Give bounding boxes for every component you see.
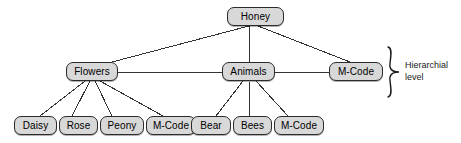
- node-label: M-Code: [338, 67, 374, 77]
- edge-flowers-to-peony: [95, 81, 112, 116]
- node-label: Peony: [108, 121, 137, 131]
- node-rose[interactable]: Rose: [59, 116, 98, 135]
- brace-path: [388, 47, 399, 97]
- node-label: M-Code: [281, 121, 317, 131]
- edge-honey-to-mcode-top: [258, 26, 350, 62]
- node-bees[interactable]: Bees: [233, 116, 272, 135]
- node-label: Bees: [241, 121, 264, 131]
- node-label: Rose: [67, 121, 91, 131]
- edge-honey-to-flowers: [112, 26, 249, 62]
- edge-animals-to-bear: [216, 81, 243, 116]
- edge-flowers-to-daisy: [40, 81, 85, 116]
- node-label: M-Code: [153, 121, 189, 131]
- node-mcode-animal[interactable]: M-Code: [274, 116, 324, 135]
- diagram-canvas: HoneyFlowersAnimalsM-CodeDaisyRosePeonyM…: [0, 0, 461, 143]
- hierarchical-level-brace: [386, 46, 400, 98]
- node-mcode-top[interactable]: M-Code: [329, 62, 383, 81]
- edge-animals-to-bees: [249, 81, 250, 116]
- node-label: Animals: [230, 67, 266, 77]
- edge-flowers-to-mcode-flower: [100, 81, 163, 116]
- node-flowers[interactable]: Flowers: [66, 62, 118, 81]
- node-label: Bear: [200, 121, 222, 131]
- node-mcode-flower[interactable]: M-Code: [146, 116, 196, 135]
- node-bear[interactable]: Bear: [191, 116, 231, 135]
- node-peony[interactable]: Peony: [100, 116, 144, 135]
- edge-flowers-to-rose: [72, 81, 90, 116]
- node-label: Honey: [241, 12, 270, 22]
- node-label: Daisy: [23, 121, 49, 131]
- edge-animals-to-mcode-animal: [256, 81, 288, 116]
- node-animals[interactable]: Animals: [222, 62, 275, 81]
- node-daisy[interactable]: Daisy: [14, 116, 57, 135]
- node-honey[interactable]: Honey: [227, 7, 284, 26]
- node-label: Flowers: [74, 67, 110, 77]
- hierarchical-level-label: Hierarchial level: [405, 60, 448, 83]
